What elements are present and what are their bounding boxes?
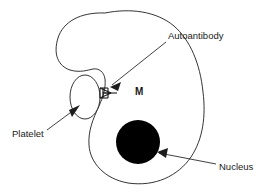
label-autoantibody: Autoantibody (168, 30, 224, 41)
immune-platelet-diagram: Autoantibody Platelet Nucleus M (0, 0, 267, 196)
diagram-canvas: Autoantibody Platelet Nucleus M (0, 0, 267, 196)
label-macrophage-marker: M (135, 86, 143, 97)
label-nucleus: Nucleus (219, 161, 254, 172)
nucleus-circle (116, 120, 160, 164)
label-platelet: Platelet (12, 128, 44, 139)
platelet-leader (47, 105, 80, 130)
